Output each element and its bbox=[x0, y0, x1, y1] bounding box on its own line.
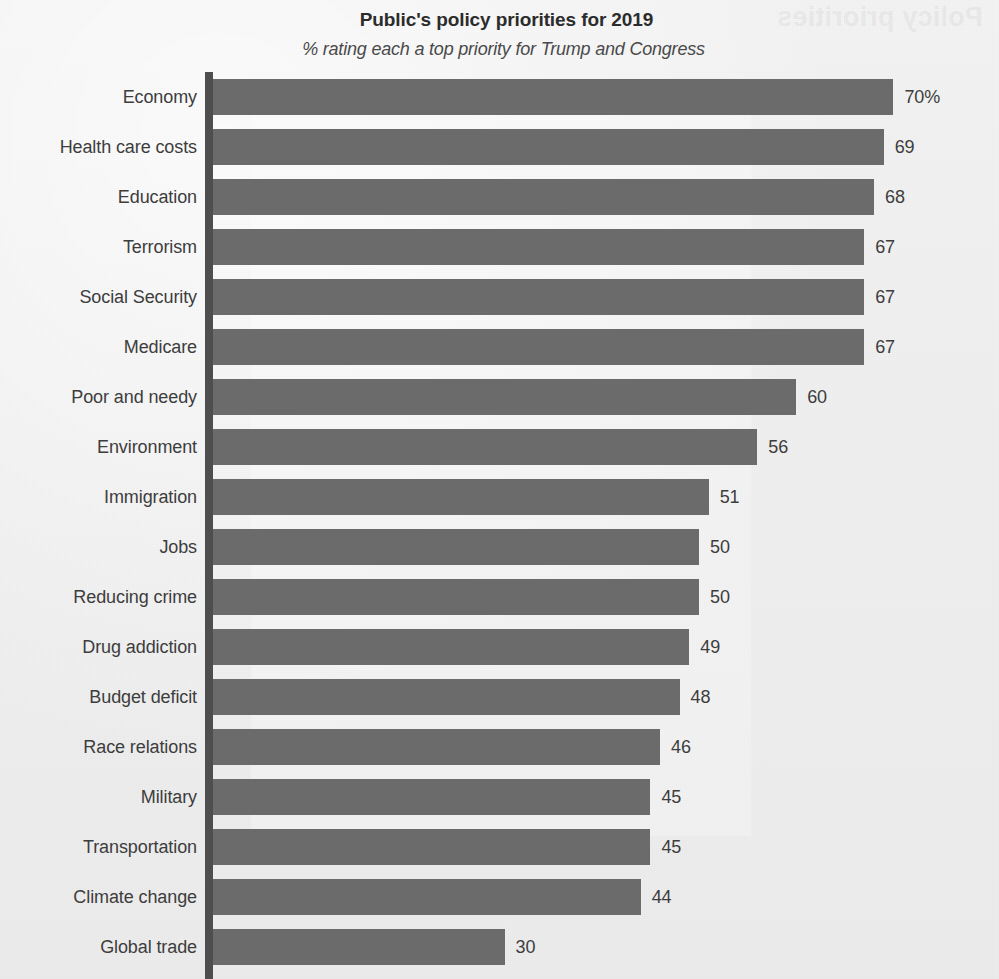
bar-category-label: Environment bbox=[97, 422, 197, 472]
bar-row: Climate change44 bbox=[0, 872, 999, 922]
bar-value-label: 67 bbox=[875, 287, 895, 308]
bar bbox=[213, 279, 864, 315]
bar-row: Budget deficit48 bbox=[0, 672, 999, 722]
bar-value-label: 67 bbox=[875, 337, 895, 358]
bar-category-label: Medicare bbox=[124, 322, 197, 372]
bar-category-label: Global trade bbox=[100, 922, 197, 972]
bar-row: Immigration51 bbox=[0, 472, 999, 522]
bar-value-label: 45 bbox=[661, 787, 681, 808]
bar-value-label: 69 bbox=[895, 137, 915, 158]
bar-row: Health care costs69 bbox=[0, 122, 999, 172]
bar-and-value: 45 bbox=[213, 822, 681, 872]
bar-category-label: Terrorism bbox=[123, 222, 197, 272]
bar-and-value: 30 bbox=[213, 922, 535, 972]
bar-and-value: 67 bbox=[213, 222, 895, 272]
bar-value-label: 51 bbox=[720, 487, 740, 508]
chart-header: Public's policy priorities for 2019 % ra… bbox=[0, 0, 999, 61]
chart-title: Public's policy priorities for 2019 bbox=[0, 8, 999, 32]
bar-category-label: Race relations bbox=[83, 722, 197, 772]
bar-value-label: 50 bbox=[710, 537, 730, 558]
bar bbox=[213, 629, 689, 665]
bar-row: Economy70% bbox=[0, 72, 999, 122]
bar-category-label: Education bbox=[118, 172, 197, 222]
bar-row: Environment56 bbox=[0, 422, 999, 472]
bar-and-value: 70% bbox=[213, 72, 940, 122]
bar-category-label: Military bbox=[141, 772, 197, 822]
bar bbox=[213, 729, 660, 765]
bar bbox=[213, 879, 641, 915]
bar-category-label: Drug addiction bbox=[82, 622, 197, 672]
bar-value-label: 50 bbox=[710, 587, 730, 608]
bar-and-value: 50 bbox=[213, 572, 730, 622]
bar-row: Medicare67 bbox=[0, 322, 999, 372]
bar-row: Reducing crime50 bbox=[0, 572, 999, 622]
bar bbox=[213, 529, 699, 565]
bar-category-label: Social Security bbox=[79, 272, 197, 322]
plot-area: Economy70%Health care costs69Education68… bbox=[0, 72, 999, 979]
bar-row: Transportation45 bbox=[0, 822, 999, 872]
bar bbox=[213, 429, 757, 465]
bar-value-label: 49 bbox=[700, 637, 720, 658]
bar-and-value: 67 bbox=[213, 272, 895, 322]
bar bbox=[213, 329, 864, 365]
bar-category-label: Climate change bbox=[73, 872, 197, 922]
bar-value-label: 67 bbox=[875, 237, 895, 258]
bar-value-label: 56 bbox=[768, 437, 788, 458]
bar-category-label: Transportation bbox=[83, 822, 197, 872]
bar-category-label: Health care costs bbox=[60, 122, 197, 172]
bar bbox=[213, 129, 884, 165]
bar-and-value: 56 bbox=[213, 422, 788, 472]
bar-and-value: 49 bbox=[213, 622, 720, 672]
bar-category-label: Poor and needy bbox=[71, 372, 197, 422]
chart-page: Policy priorities percentage Public's po… bbox=[0, 0, 999, 979]
bar-row: Education68 bbox=[0, 172, 999, 222]
bar-rows-container: Economy70%Health care costs69Education68… bbox=[0, 72, 999, 972]
bar-category-label: Reducing crime bbox=[73, 572, 197, 622]
bar-category-label: Budget deficit bbox=[89, 672, 197, 722]
bar bbox=[213, 229, 864, 265]
bar-value-label: 44 bbox=[652, 887, 672, 908]
chart-subtitle: % rating each a top priority for Trump a… bbox=[0, 32, 999, 61]
bar bbox=[213, 679, 680, 715]
bar bbox=[213, 829, 650, 865]
bar-row: Jobs50 bbox=[0, 522, 999, 572]
bar-value-label: 48 bbox=[691, 687, 711, 708]
bar-and-value: 45 bbox=[213, 772, 681, 822]
bar-row: Terrorism67 bbox=[0, 222, 999, 272]
bar-and-value: 51 bbox=[213, 472, 740, 522]
bar-value-label: 30 bbox=[516, 937, 536, 958]
bar bbox=[213, 79, 893, 115]
bar bbox=[213, 379, 796, 415]
bar bbox=[213, 479, 709, 515]
bar bbox=[213, 179, 874, 215]
bar bbox=[213, 579, 699, 615]
bar-value-label: 68 bbox=[885, 187, 905, 208]
bar-and-value: 50 bbox=[213, 522, 730, 572]
bar bbox=[213, 779, 650, 815]
bar-and-value: 69 bbox=[213, 122, 915, 172]
bar-value-label: 60 bbox=[807, 387, 827, 408]
bar-row: Global trade30 bbox=[0, 922, 999, 972]
bar-row: Military45 bbox=[0, 772, 999, 822]
bar-value-label: 45 bbox=[661, 837, 681, 858]
bar-and-value: 67 bbox=[213, 322, 895, 372]
bar-and-value: 60 bbox=[213, 372, 827, 422]
bar-row: Drug addiction49 bbox=[0, 622, 999, 672]
bar-category-label: Economy bbox=[123, 72, 197, 122]
bar-row: Poor and needy60 bbox=[0, 372, 999, 422]
bar-value-label: 46 bbox=[671, 737, 691, 758]
bar-value-label: 70% bbox=[904, 87, 940, 108]
bar-and-value: 48 bbox=[213, 672, 710, 722]
bar-row: Social Security67 bbox=[0, 272, 999, 322]
bar-row: Race relations46 bbox=[0, 722, 999, 772]
bar-category-label: Jobs bbox=[159, 522, 197, 572]
bar-category-label: Immigration bbox=[104, 472, 197, 522]
bar-and-value: 68 bbox=[213, 172, 905, 222]
bar bbox=[213, 929, 505, 965]
bar-and-value: 46 bbox=[213, 722, 691, 772]
bar-and-value: 44 bbox=[213, 872, 672, 922]
